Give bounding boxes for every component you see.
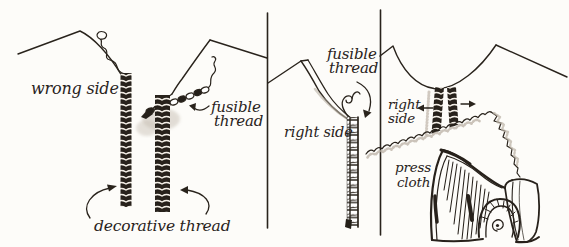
fusible-thread-arrow-down	[357, 82, 372, 118]
decorative-thread-strip-1	[121, 73, 132, 207]
decorative-thread-strip-2	[155, 95, 170, 212]
label-fusible-thread-panel1: fusible thread	[211, 100, 263, 128]
label-right-side-panel3: right side	[388, 97, 421, 125]
label-press-cloth: press cloth	[395, 160, 431, 190]
press-direction-arrow-right	[461, 101, 476, 108]
label-wrong-side: wrong side	[31, 81, 119, 97]
fusible-thread-arrow-left	[189, 103, 209, 111]
panel3-garment-neckline	[380, 45, 567, 89]
panel1-garment-wrong-side	[18, 31, 125, 76]
seam-shadow-stipple	[426, 92, 429, 138]
decorative-thread-arrow-left	[87, 185, 117, 219]
decorative-thread-arrow-right	[180, 186, 209, 214]
label-fusible-thread-panel2: fusible thread	[327, 47, 378, 75]
label-right-side-panel2: right side	[284, 125, 353, 140]
sewing-illustration: wrong side fusible thread decorative thr…	[0, 0, 569, 247]
label-decorative-thread: decorative thread	[94, 219, 230, 235]
